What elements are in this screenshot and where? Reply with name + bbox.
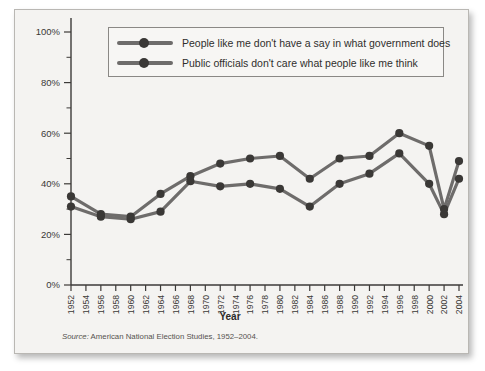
x-tick-label: 1966 [171, 295, 181, 314]
source-text: American National Election Studies, 1952… [89, 332, 258, 341]
x-tick-label: 1988 [335, 295, 345, 314]
legend-marker-icon [117, 37, 173, 49]
x-axis-title: Year [219, 311, 240, 322]
source-label: Source: [62, 332, 89, 341]
x-tick-label: 1998 [410, 295, 420, 314]
x-tick-label: 1978 [260, 295, 270, 314]
x-tick-label: 1992 [365, 295, 375, 314]
x-tick-label: 1986 [320, 295, 330, 314]
data-point [156, 190, 164, 198]
x-tick-label: 1954 [81, 295, 91, 314]
x-tick-label: 1970 [201, 295, 211, 314]
x-tick-label: 1990 [350, 295, 360, 314]
data-point [276, 185, 284, 193]
y-tick-label: 60% [41, 128, 61, 139]
data-point [455, 157, 463, 165]
series-line-0 [71, 153, 459, 219]
data-point [276, 152, 284, 160]
data-point [425, 142, 433, 150]
legend-label-1: Public officials don't care what people … [182, 57, 418, 69]
data-point [395, 129, 403, 137]
x-tick-label: 1980 [275, 295, 285, 314]
data-point [156, 208, 164, 216]
x-tick-label: 1968 [186, 295, 196, 314]
x-tick-label: 2002 [439, 295, 449, 314]
data-point [216, 182, 224, 190]
data-point [336, 154, 344, 162]
data-point [306, 202, 314, 210]
y-tick-label: 0% [46, 279, 60, 290]
data-point [246, 180, 254, 188]
x-axis: 1952195419561958196019621964196619681970… [66, 285, 464, 314]
data-point [67, 192, 75, 200]
x-tick-label: 1960 [126, 295, 136, 314]
legend-item-0[interactable]: People like me don't have a say in what … [117, 34, 450, 52]
x-tick-label: 2000 [425, 295, 435, 314]
x-tick-label: 1964 [156, 295, 166, 314]
legend-marker-icon [117, 57, 173, 69]
legend-label-0: People like me don't have a say in what … [182, 37, 450, 49]
chart-legend: People like me don't have a say in what … [108, 27, 444, 77]
y-tick-label: 20% [41, 229, 61, 240]
data-point [186, 172, 194, 180]
data-point [365, 170, 373, 178]
source-note: Source: American National Election Studi… [62, 332, 258, 341]
x-tick-label: 1976 [245, 295, 255, 314]
series-line-1 [71, 133, 459, 216]
data-series-group [67, 129, 463, 223]
x-tick-label: 1952 [66, 295, 76, 314]
data-point [306, 175, 314, 183]
y-tick-label: 80% [41, 77, 61, 88]
data-point [216, 159, 224, 167]
y-tick-label: 40% [41, 178, 61, 189]
chart-figure: 0%20%40%60%80%100% 195219541956195819601… [14, 9, 469, 354]
x-tick-label: 1994 [380, 295, 390, 314]
data-point [127, 213, 135, 221]
y-axis: 0%20%40%60%80%100% [36, 18, 71, 290]
x-tick-label: 1982 [290, 295, 300, 314]
x-tick-label: 1962 [141, 295, 151, 314]
data-point [365, 152, 373, 160]
data-point [97, 210, 105, 218]
data-point [395, 149, 403, 157]
x-tick-label: 1984 [305, 295, 315, 314]
x-tick-label: 1958 [111, 295, 121, 314]
legend-item-1[interactable]: Public officials don't care what people … [117, 54, 418, 72]
data-point [67, 202, 75, 210]
data-point [455, 175, 463, 183]
data-point [440, 205, 448, 213]
x-tick-label: 1956 [96, 295, 106, 314]
data-point [246, 154, 254, 162]
x-tick-label: 2004 [454, 295, 464, 314]
data-point [336, 180, 344, 188]
data-point [425, 180, 433, 188]
y-tick-label: 100% [36, 26, 61, 37]
x-tick-label: 1996 [395, 295, 405, 314]
